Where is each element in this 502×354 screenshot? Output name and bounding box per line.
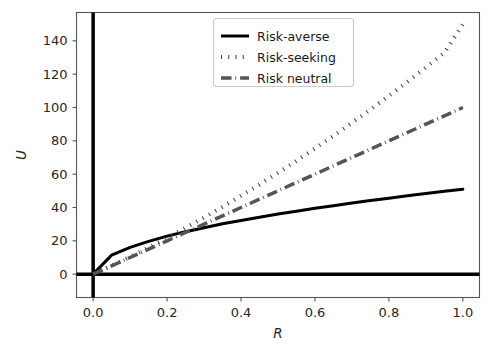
x-axis-label: R: [273, 325, 282, 341]
legend-label-risk-neutral: Risk neutral: [257, 71, 332, 86]
chart-plot-area: 0.00.20.40.60.81.0 020406080100120140 R …: [0, 0, 502, 354]
y-tick-label: 20: [51, 233, 68, 248]
y-tick-label: 60: [51, 167, 68, 182]
x-tick-label: 0.8: [379, 305, 400, 320]
x-tick-label: 0.2: [157, 305, 178, 320]
y-axis-label: U: [13, 150, 29, 160]
y-tick-label: 0: [59, 267, 67, 282]
y-axis-ticks: 020406080100120140: [43, 33, 77, 281]
y-tick-label: 120: [43, 67, 68, 82]
x-axis-ticks: 0.00.20.40.60.81.0: [83, 298, 473, 320]
chart-legend[interactable]: Risk-averseRisk-seekingRisk neutral: [214, 19, 354, 87]
x-tick-label: 0.4: [231, 305, 252, 320]
y-tick-label: 100: [43, 100, 68, 115]
y-tick-label: 80: [51, 133, 68, 148]
figure-canvas: 0.00.20.40.60.81.0 020406080100120140 R …: [0, 0, 502, 354]
legend-label-risk-averse: Risk-averse: [257, 29, 330, 44]
x-tick-label: 1.0: [453, 305, 474, 320]
x-tick-label: 0.6: [305, 305, 326, 320]
legend-label-risk-seeking: Risk-seeking: [257, 50, 336, 65]
x-tick-label: 0.0: [83, 305, 104, 320]
y-tick-label: 140: [43, 33, 68, 48]
y-tick-label: 40: [51, 200, 68, 215]
